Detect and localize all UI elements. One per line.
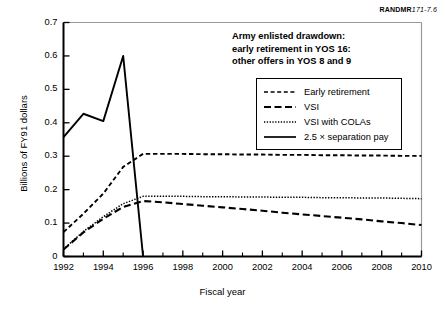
legend-label: VSI with COLAs [304, 117, 371, 127]
x-tick-label: 2006 [322, 262, 362, 272]
chart-legend: Early retirement VSI VSI with COLAs 2.5 … [256, 78, 402, 150]
legend-swatch-vsi [263, 101, 297, 113]
y-tick-label: 0.6 [24, 50, 58, 60]
x-tick-label: 2008 [362, 262, 402, 272]
legend-swatch-vsi-with-colas [263, 116, 297, 128]
y-tick-label: 0.3 [24, 150, 58, 160]
legend-item: VSI with COLAs [263, 114, 395, 129]
legend-label: Early retirement [304, 87, 370, 97]
series-line-2-5-separation-pay [64, 56, 144, 257]
legend-item: Early retirement [263, 84, 395, 99]
x-tick-label: 2000 [203, 262, 243, 272]
legend-item: 2.5 × separation pay [263, 129, 395, 144]
annotation-line-2: early retirement in YOS 16: [232, 43, 351, 56]
y-tick-label: 0.5 [24, 83, 58, 93]
legend-item: VSI [263, 99, 395, 114]
chart-figure: RANDMR171-7.6 Billions of FY91 dollars F… [0, 0, 445, 312]
y-tick-label: 0.1 [24, 217, 58, 227]
annotation-line-1: Army enlisted drawdown: [232, 30, 351, 43]
chart-annotation: Army enlisted drawdown: early retirement… [232, 30, 351, 68]
legend-swatch-early-retirement [263, 86, 297, 98]
legend-label: 2.5 × separation pay [304, 132, 389, 142]
x-tick-label: 2004 [282, 262, 322, 272]
x-tick-label: 1994 [83, 262, 123, 272]
y-tick-label: 0 [24, 251, 58, 261]
y-tick-label: 0.4 [24, 117, 58, 127]
x-tick-label: 1992 [44, 262, 84, 272]
x-tick-label: 1998 [163, 262, 203, 272]
x-tick-label: 1996 [123, 262, 163, 272]
annotation-line-3: other offers in YOS 8 and 9 [232, 55, 351, 68]
legend-label: VSI [304, 102, 319, 112]
x-tick-label: 2002 [242, 262, 282, 272]
y-tick-label: 0.7 [24, 17, 58, 27]
y-tick-label: 0.2 [24, 184, 58, 194]
x-tick-label: 2010 [402, 262, 442, 272]
legend-swatch-separation-pay [263, 131, 297, 143]
series-line-vsi-with-colas [64, 196, 422, 249]
